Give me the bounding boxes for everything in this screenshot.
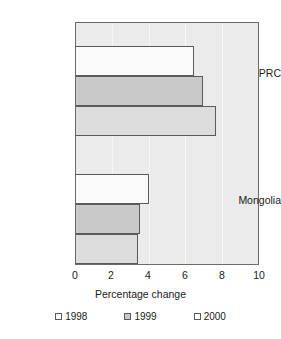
legend-label-1998: 1998 bbox=[65, 311, 87, 322]
bar-mongolia-1998 bbox=[75, 174, 149, 204]
bar-prc-2000 bbox=[75, 106, 216, 136]
bar-mongolia-2000 bbox=[75, 234, 138, 264]
legend-label-1999: 1999 bbox=[134, 311, 156, 322]
legend-swatch-1998-icon bbox=[55, 313, 62, 320]
x-tick-0: 0 bbox=[63, 268, 87, 282]
x-tick-10: 10 bbox=[247, 268, 271, 282]
legend-item-1999: 1999 bbox=[124, 311, 156, 322]
x-tick-8: 8 bbox=[210, 268, 234, 282]
x-tick-4: 4 bbox=[136, 268, 160, 282]
gridline-8 bbox=[222, 23, 223, 264]
bar-prc-1999 bbox=[75, 76, 203, 106]
legend-item-1998: 1998 bbox=[55, 311, 87, 322]
x-axis-ticks: 0 2 4 6 8 10 bbox=[0, 268, 281, 284]
category-label-mongolia: Mongolia bbox=[211, 194, 281, 206]
bar-mongolia-1999 bbox=[75, 204, 140, 234]
legend-item-2000: 2000 bbox=[194, 311, 226, 322]
chart-legend: 1998 1999 2000 bbox=[0, 311, 281, 322]
legend-swatch-1999-icon bbox=[124, 313, 131, 320]
x-tick-6: 6 bbox=[173, 268, 197, 282]
bar-prc-1998 bbox=[75, 46, 194, 76]
x-axis-title: Percentage change bbox=[0, 288, 281, 300]
legend-swatch-2000-icon bbox=[194, 313, 201, 320]
x-tick-2: 2 bbox=[99, 268, 123, 282]
plot-area bbox=[75, 22, 259, 265]
legend-label-2000: 2000 bbox=[204, 311, 226, 322]
bar-chart: PRC Mongolia 0 2 4 6 8 10 Percentage cha… bbox=[0, 0, 281, 339]
category-label-prc: PRC bbox=[211, 67, 281, 79]
